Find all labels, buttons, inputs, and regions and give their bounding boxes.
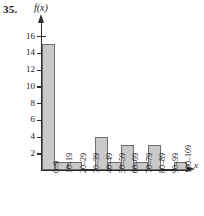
x-tick-label: 20–29 (79, 153, 88, 173)
x-tick-label: 100–109 (184, 145, 193, 173)
y-tick-label: 8 (31, 97, 36, 109)
y-tick-label: 16 (26, 30, 35, 42)
x-tick-label: 80–89 (158, 153, 167, 173)
x-tick-label: 60–69 (131, 153, 140, 173)
y-axis-arrow-icon (38, 14, 44, 23)
y-tick-label: 10 (26, 80, 35, 92)
x-tick-label: 10–19 (65, 153, 74, 173)
x-tick-label: 0–9 (52, 161, 61, 173)
y-tick-label: 14 (26, 46, 35, 58)
x-tick-label: 90–99 (171, 153, 180, 173)
y-axis-label: f(x) (34, 2, 48, 13)
histogram-bar (42, 44, 55, 170)
histogram-figure: 35. f(x) x 246810121416 0–910–1920–2930–… (0, 0, 204, 216)
x-tick-label: 30–39 (92, 153, 101, 173)
problem-number: 35. (3, 3, 17, 15)
y-tick: 16 (37, 36, 46, 37)
y-tick-label: 6 (31, 113, 36, 125)
y-tick-label: 4 (31, 130, 36, 142)
x-tick-label: 70–79 (145, 153, 154, 173)
y-tick-label: 12 (26, 63, 35, 75)
x-tick-label: 50–59 (118, 153, 127, 173)
x-tick-label: 40–49 (105, 153, 114, 173)
y-tick-label: 2 (31, 147, 36, 159)
